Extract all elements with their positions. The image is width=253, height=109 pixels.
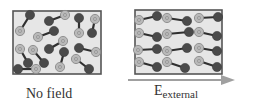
negative-charge-icon <box>44 16 53 25</box>
positive-charge-icon <box>162 13 171 22</box>
positive-charge-icon <box>194 56 203 65</box>
positive-charge-icon <box>162 29 171 38</box>
positive-charge-icon <box>90 14 99 23</box>
positive-charge-icon <box>194 13 203 22</box>
negative-charge-icon <box>212 31 221 40</box>
negative-charge-icon <box>49 26 58 35</box>
positive-charge-icon <box>71 54 80 63</box>
positive-charge-icon <box>194 43 203 52</box>
negative-charge-icon <box>182 43 191 52</box>
positive-charge-icon <box>58 36 67 45</box>
positive-charge-icon <box>194 27 203 36</box>
positive-charge-icon <box>74 28 83 37</box>
negative-charge-icon <box>152 11 161 20</box>
negative-charge-icon <box>74 43 83 52</box>
positive-charge-icon <box>134 15 143 24</box>
positive-charge-icon <box>60 10 69 19</box>
no-field-panel <box>13 10 101 74</box>
negative-charge-icon <box>74 13 83 22</box>
positive-charge-icon <box>55 62 64 71</box>
negative-charge-icon <box>152 62 161 71</box>
positive-charge-icon <box>15 44 24 53</box>
negative-charge-icon <box>152 32 161 41</box>
negative-charge-icon <box>13 64 22 73</box>
positive-charge-icon <box>33 32 42 41</box>
negative-charge-icon <box>212 46 221 55</box>
negative-charge-icon <box>212 62 221 71</box>
external-field-panel <box>133 10 222 74</box>
e-symbol: E <box>154 83 163 98</box>
negative-charge-icon <box>39 58 48 67</box>
arrow-head <box>221 75 235 85</box>
positive-charge-icon <box>91 47 100 56</box>
negative-charge-icon <box>84 64 93 73</box>
negative-charge-icon <box>59 47 68 56</box>
no-field-label: No field <box>26 87 72 101</box>
positive-charge-icon <box>28 45 37 54</box>
positive-charge-icon <box>134 57 143 66</box>
positive-charge-icon <box>162 46 171 55</box>
negative-charge-icon <box>25 10 34 19</box>
no-field-label-text: No field <box>26 86 72 101</box>
negative-charge-icon <box>23 58 32 67</box>
positive-charge-icon <box>31 64 40 73</box>
negative-charge-icon <box>180 63 189 72</box>
positive-charge-icon <box>133 45 142 54</box>
e-subscript: external <box>163 88 198 100</box>
negative-charge-icon <box>152 44 161 53</box>
negative-charge-icon <box>44 44 53 53</box>
external-field-label: Eexternal <box>154 84 198 100</box>
negative-charge-icon <box>213 12 222 21</box>
positive-charge-icon <box>162 57 171 66</box>
negative-charge-icon <box>182 16 191 25</box>
negative-charge-icon <box>87 28 96 37</box>
negative-charge-icon <box>184 27 193 36</box>
positive-charge-icon <box>15 26 24 35</box>
positive-charge-icon <box>134 28 143 37</box>
